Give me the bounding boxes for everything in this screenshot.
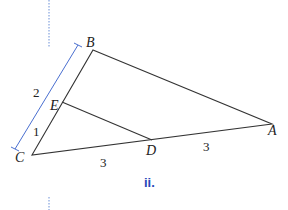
length-ec: 1 (33, 124, 40, 139)
length-be: 2 (33, 85, 40, 100)
triangle-diagram: B E C D A 2 1 3 3 ii. (0, 0, 288, 210)
label-point-b: B (86, 35, 95, 50)
length-da: 3 (203, 139, 210, 154)
length-cd: 3 (100, 155, 107, 170)
label-point-d: D (145, 143, 156, 158)
figure-caption: ii. (144, 175, 155, 190)
measurement-bracket (11, 43, 82, 151)
label-point-c: C (15, 150, 25, 165)
label-point-e: E (49, 98, 59, 113)
segment-ed (62, 102, 152, 140)
triangle-abc (32, 50, 272, 155)
label-point-a: A (267, 123, 277, 138)
